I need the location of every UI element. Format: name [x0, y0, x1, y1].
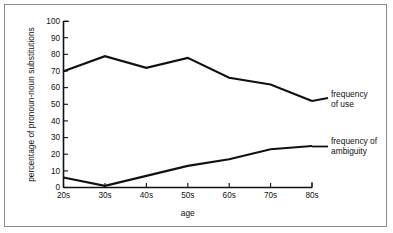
series-line-frequency-of-ambiguity: [64, 146, 313, 186]
y-tick-label-90: 90: [51, 34, 61, 43]
y-tick-label-60: 60: [51, 83, 61, 92]
series-label-frequency-of-use: frequency of use: [331, 89, 369, 109]
series-label-ambiguity-line2: ambiguity: [331, 146, 368, 156]
y-tick-label-20: 20: [51, 150, 61, 159]
x-axis-title: age: [181, 208, 195, 218]
x-tick-label-50s: 50s: [181, 191, 194, 200]
y-tick-label-70: 70: [51, 67, 61, 76]
y-tick-label-50: 50: [51, 100, 61, 109]
series-label-frequency-of-ambiguity: frequency of ambiguity: [331, 136, 378, 156]
y-tick-label-80: 80: [51, 50, 61, 59]
y-tick-label-40: 40: [51, 117, 61, 126]
y-tick-label-30: 30: [51, 133, 61, 142]
x-tick-labels: 20s 30s 40s 50s 60s 70s 80s: [57, 191, 319, 200]
x-tick-label-30s: 30s: [98, 191, 111, 200]
x-tick-label-60s: 60s: [223, 191, 236, 200]
x-tick-label-70s: 70s: [264, 191, 277, 200]
leader-line-frequency-of-use: [312, 98, 328, 101]
y-axis-title: percentage of pronoun-noun substitutions: [26, 27, 36, 182]
x-tick-label-80s: 80s: [305, 191, 318, 200]
y-tick-label-10: 10: [51, 167, 61, 176]
series-label-ambiguity-line1: frequency of: [331, 136, 378, 146]
series-label-use-line2: of use: [331, 99, 354, 109]
x-tick-label-20s: 20s: [57, 191, 70, 200]
series-line-frequency-of-use: [64, 56, 313, 101]
x-tick-label-40s: 40s: [140, 191, 153, 200]
y-tick-labels: 0 10 20 30 40 50 60 70 80 90 100: [46, 17, 60, 192]
y-tick-label-100: 100: [46, 17, 60, 26]
series-label-use-line1: frequency: [331, 89, 369, 99]
chart-svg: 0 10 20 30 40 50 60 70 80 90 100 20s 30s…: [0, 0, 393, 233]
line-chart: 0 10 20 30 40 50 60 70 80 90 100 20s 30s…: [0, 0, 393, 233]
